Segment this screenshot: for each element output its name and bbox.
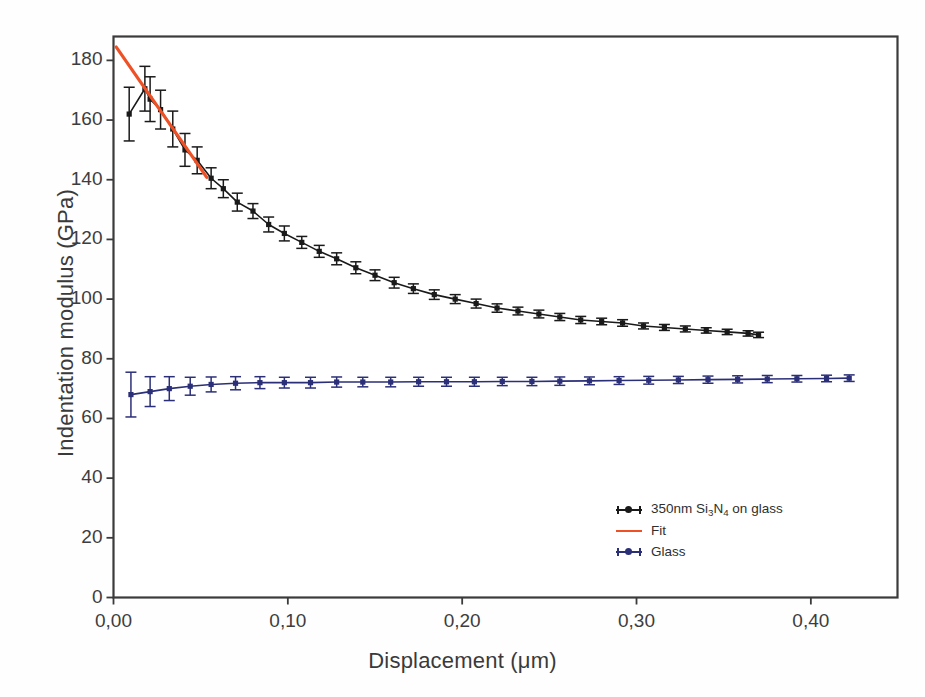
legend-label-film: 350nm Si3N4 on glass: [651, 501, 783, 518]
x-tick-label: 0,00: [69, 610, 159, 632]
y-tick-label: 20: [43, 526, 103, 548]
legend-marker-film: [614, 501, 644, 519]
x-tick-label: 0,20: [417, 610, 507, 632]
x-axis-title: Displacement (μm): [0, 648, 925, 674]
y-tick-label: 40: [43, 466, 103, 488]
legend-item-film[interactable]: 350nm Si3N4 on glass: [614, 499, 783, 520]
legend-item-fit[interactable]: Fit: [614, 520, 783, 541]
chart-legend: 350nm Si3N4 on glass Fit Glass: [614, 499, 783, 562]
y-tick-label: 120: [43, 227, 103, 249]
legend-item-glass[interactable]: Glass: [614, 541, 783, 562]
y-tick-label: 160: [43, 108, 103, 130]
chart-plot-area: [0, 0, 925, 697]
x-tick-label: 0,40: [766, 610, 856, 632]
y-tick-label: 140: [43, 168, 103, 190]
legend-marker-fit: [614, 522, 644, 540]
y-tick-label: 180: [43, 48, 103, 70]
legend-label-fit: Fit: [651, 523, 666, 538]
x-tick-label: 0,10: [243, 610, 333, 632]
y-tick-label: 100: [43, 287, 103, 309]
legend-marker-glass: [614, 543, 644, 561]
y-tick-label: 80: [43, 347, 103, 369]
legend-label-glass: Glass: [651, 544, 686, 559]
y-tick-label: 0: [43, 586, 103, 608]
chart-figure: Indentation modulus (GPa) Displacement (…: [0, 0, 925, 697]
y-tick-label: 60: [43, 406, 103, 428]
x-tick-label: 0,30: [592, 610, 682, 632]
